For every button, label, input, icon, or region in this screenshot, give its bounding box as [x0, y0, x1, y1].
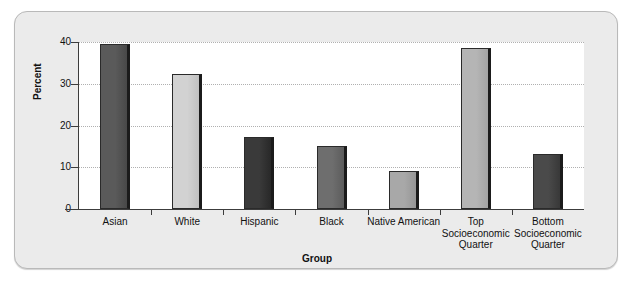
y-axis-tick-group: 010203040	[15, 12, 71, 268]
x-axis-label-line: Quarter	[504, 239, 592, 251]
bar	[317, 146, 347, 209]
bar	[461, 48, 491, 209]
x-axis-tick	[512, 209, 513, 215]
y-axis-tick-label: 20	[35, 121, 71, 131]
y-axis-tick	[71, 84, 78, 85]
y-axis-tick-label: 10	[35, 162, 71, 172]
y-axis-tick	[71, 42, 78, 43]
x-axis-label-line: Socioeconomic	[504, 228, 592, 240]
plot-area	[79, 42, 584, 209]
x-axis-title: Group	[15, 253, 619, 264]
x-axis-tick	[151, 209, 152, 215]
bar	[533, 154, 563, 209]
y-axis-tick	[71, 126, 78, 127]
bar	[100, 44, 130, 209]
x-axis-tick	[440, 209, 441, 215]
y-axis-tick-label: 30	[35, 79, 71, 89]
x-axis-line	[65, 209, 584, 210]
gridline	[79, 126, 584, 127]
x-axis-tick	[223, 209, 224, 215]
x-axis-label: BottomSocioeconomicQuarter	[504, 216, 592, 251]
bar	[389, 171, 419, 209]
chart-frame: Percent 010203040 AsianWhiteHispanicBlac…	[14, 11, 618, 269]
x-axis-tick	[295, 209, 296, 215]
y-axis-tick	[71, 167, 78, 168]
x-axis-label-line: Bottom	[504, 216, 592, 228]
gridline	[79, 42, 584, 43]
x-axis-tick	[368, 209, 369, 215]
y-axis-tick-label: 40	[35, 37, 71, 47]
gridline	[79, 84, 584, 85]
bar	[244, 137, 274, 209]
bar	[172, 74, 202, 209]
y-axis-tick	[71, 209, 78, 210]
